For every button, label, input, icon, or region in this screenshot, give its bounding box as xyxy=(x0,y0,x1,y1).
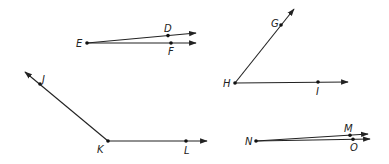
point-K xyxy=(106,139,110,143)
label-M: M xyxy=(344,123,353,134)
point-G xyxy=(279,23,283,27)
diagram-svg: E D F H G I J K L xyxy=(0,0,389,164)
point-E xyxy=(85,41,89,45)
label-F: F xyxy=(168,46,174,57)
label-O: O xyxy=(350,142,358,153)
point-O xyxy=(351,138,355,142)
point-N xyxy=(254,139,258,143)
ray-HI xyxy=(235,82,348,83)
label-I: I xyxy=(316,86,319,97)
label-H: H xyxy=(223,78,231,89)
label-D: D xyxy=(164,23,172,34)
point-H xyxy=(233,81,237,85)
point-L xyxy=(184,139,188,143)
label-L: L xyxy=(184,145,190,156)
label-G: G xyxy=(271,18,279,29)
label-N: N xyxy=(245,136,253,147)
point-D xyxy=(166,34,170,38)
ray-HG xyxy=(235,9,294,83)
ray-ED xyxy=(87,33,196,43)
angle-DEF: E D F xyxy=(76,23,196,57)
ray-KJ xyxy=(25,72,108,141)
angle-GHI: H G I xyxy=(223,9,348,97)
angles-diagram: E D F H G I J K L xyxy=(0,0,389,164)
point-F xyxy=(169,41,173,45)
label-K: K xyxy=(97,144,105,155)
label-E: E xyxy=(76,38,83,49)
angle-MNO: N M O xyxy=(245,123,370,153)
point-I xyxy=(316,80,320,84)
angle-JKL: J K L xyxy=(25,72,207,156)
